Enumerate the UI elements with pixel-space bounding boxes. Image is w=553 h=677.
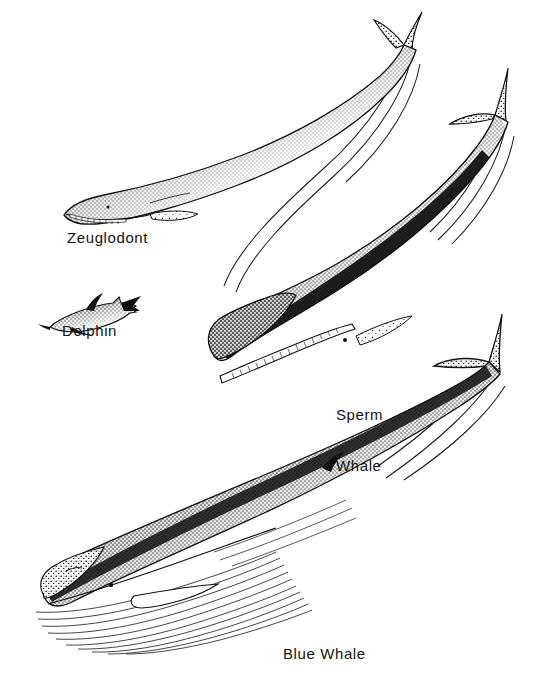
label-dolphin: Dolphin	[62, 322, 117, 339]
label-blue-whale: Blue Whale	[283, 645, 366, 662]
label-zeuglodont: Zeuglodont	[67, 229, 148, 246]
sperm-whale-eye	[343, 338, 347, 342]
whale-comparison-plate: Zeuglodont Dolphin Sperm Whale Blue Whal…	[0, 0, 553, 677]
zeuglodont-eye	[107, 206, 110, 209]
label-sperm-whale: Sperm Whale	[336, 372, 383, 508]
label-sperm-whale-line1: Sperm	[336, 406, 383, 423]
label-sperm-whale-line2: Whale	[336, 457, 383, 474]
blue-whale-eye	[109, 583, 113, 587]
